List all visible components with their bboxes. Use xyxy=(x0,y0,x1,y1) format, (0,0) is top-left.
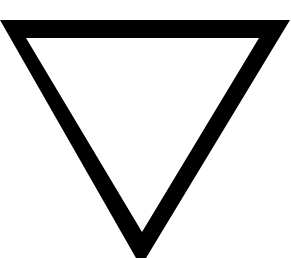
background xyxy=(0,0,291,258)
inverted-triangle-icon xyxy=(0,0,291,258)
